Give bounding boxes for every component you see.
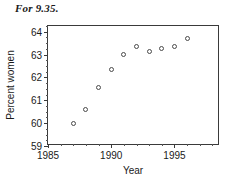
x-axis-minor-tick <box>86 144 87 146</box>
y-axis-minor-tick <box>46 140 48 141</box>
y-axis-major-tick <box>44 77 48 78</box>
y-axis-major-tick <box>44 55 48 56</box>
y-axis-minor-tick <box>46 72 48 73</box>
x-axis-minor-tick <box>187 144 188 146</box>
data-point <box>71 121 76 126</box>
data-point <box>185 36 190 41</box>
y-axis-tick-label: 63 <box>31 49 42 60</box>
y-axis-minor-tick <box>46 26 48 27</box>
data-point <box>134 44 139 49</box>
figure-caption: For 9.35. <box>15 2 59 14</box>
x-axis-minor-tick <box>99 144 100 146</box>
x-axis-minor-tick <box>162 144 163 146</box>
data-point <box>96 85 101 90</box>
x-axis-major-tick <box>48 144 49 148</box>
x-axis-tick-label: 1990 <box>100 150 122 161</box>
y-axis-minor-tick <box>46 129 48 130</box>
y-axis-major-tick <box>44 100 48 101</box>
y-axis-minor-tick <box>46 117 48 118</box>
y-axis-minor-tick <box>46 49 48 50</box>
y-axis-minor-tick <box>46 89 48 90</box>
data-point <box>147 49 152 54</box>
y-axis-label: Percent women <box>5 50 16 119</box>
data-point <box>109 67 114 72</box>
x-axis-minor-tick <box>73 144 74 146</box>
y-axis-tick-label: 62 <box>31 72 42 83</box>
y-axis-minor-tick <box>46 106 48 107</box>
y-axis-minor-tick <box>46 66 48 67</box>
x-axis-label: Year <box>123 165 143 176</box>
data-point <box>83 107 88 112</box>
x-axis-minor-tick <box>212 144 213 146</box>
chart-screenshot: For 9.35. 596061626364 198519901995 Perc… <box>0 0 232 185</box>
x-axis-minor-tick <box>61 144 62 146</box>
x-axis-minor-tick <box>200 144 201 146</box>
x-axis-major-tick <box>111 144 112 148</box>
y-axis-major-tick <box>44 123 48 124</box>
x-axis-tick-label: 1995 <box>163 150 185 161</box>
y-axis-minor-tick <box>46 112 48 113</box>
y-axis-minor-tick <box>46 37 48 38</box>
data-point <box>159 46 164 51</box>
y-axis-tick-label: 64 <box>31 26 42 37</box>
y-axis-minor-tick <box>46 135 48 136</box>
x-axis-minor-tick <box>124 144 125 146</box>
x-axis-tick-label: 1985 <box>37 150 59 161</box>
y-axis-tick-label: 61 <box>31 95 42 106</box>
plot-area: 596061626364 198519901995 <box>47 25 219 145</box>
x-axis-major-tick <box>174 144 175 148</box>
x-axis-minor-tick <box>149 144 150 146</box>
y-axis-minor-tick <box>46 83 48 84</box>
data-point <box>121 52 126 57</box>
x-axis-minor-tick <box>137 144 138 146</box>
y-axis-minor-tick <box>46 43 48 44</box>
data-point <box>172 44 177 49</box>
y-axis-minor-tick <box>46 95 48 96</box>
y-axis-major-tick <box>44 32 48 33</box>
y-axis-tick-label: 60 <box>31 118 42 129</box>
y-axis-minor-tick <box>46 60 48 61</box>
